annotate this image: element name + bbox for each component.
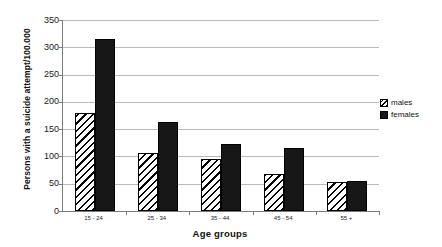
bar-group <box>126 20 189 211</box>
x-tick-label: 25 - 34 <box>125 214 188 222</box>
bar-males <box>138 153 158 211</box>
x-axis-tick <box>379 211 380 215</box>
y-axis-tick <box>59 211 63 212</box>
bar-males <box>264 174 284 211</box>
y-tick-label: 250 <box>26 70 59 79</box>
y-tick-label: 100 <box>26 152 59 161</box>
bar-males <box>201 159 221 211</box>
legend-swatch-males <box>380 99 388 107</box>
bar-males <box>75 113 95 211</box>
bar-chart: Persons with a suicide attempt/100.000 0… <box>0 0 442 247</box>
x-tick-label: 45 - 54 <box>252 214 315 222</box>
plot-area <box>62 20 379 212</box>
bar-females <box>284 148 304 211</box>
y-tick-label: 0 <box>26 207 59 216</box>
bar-group <box>253 20 316 211</box>
bar-females <box>95 39 115 211</box>
bar-males <box>327 182 347 211</box>
bar-females <box>347 181 367 211</box>
bar-group <box>316 20 379 211</box>
y-tick-label: 200 <box>26 97 59 106</box>
bar-females <box>221 144 241 211</box>
legend-swatch-females <box>380 111 388 119</box>
y-tick-label: 300 <box>26 43 59 52</box>
legend-label: males <box>391 99 412 107</box>
x-tick-label: 15 - 24 <box>62 214 125 222</box>
legend-item: females <box>380 109 440 120</box>
chart-legend: malesfemales <box>380 97 440 121</box>
legend-item: males <box>380 97 440 108</box>
bar-group <box>189 20 252 211</box>
y-tick-label: 50 <box>26 179 59 188</box>
y-axis-tick-labels: 050100150200250300350 <box>26 0 59 247</box>
bar-females <box>158 122 178 211</box>
x-axis-tick-labels: 15 - 2425 - 3435 - 4445 - 5455 + <box>62 214 378 228</box>
bar-group <box>63 20 126 211</box>
y-tick-label: 350 <box>26 16 59 25</box>
y-tick-label: 150 <box>26 125 59 134</box>
legend-label: females <box>391 111 419 119</box>
x-axis-title: Age groups <box>62 228 378 239</box>
x-tick-label: 55 + <box>315 214 378 222</box>
x-tick-label: 35 - 44 <box>188 214 251 222</box>
bars-layer <box>63 20 379 211</box>
